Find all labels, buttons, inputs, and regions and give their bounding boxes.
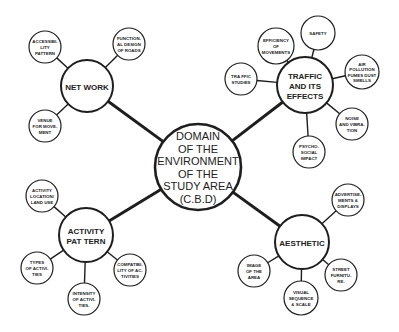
hub-node-network-label: NET WORK xyxy=(65,83,109,92)
leaf-node-traffic-3: TRA FFICSTUDIES xyxy=(225,63,257,95)
leaf-node-activity-0: ACTIVITYLOCATION/LAND USE xyxy=(26,180,58,212)
leaf-node-network-1-label: AL DESIGN xyxy=(117,42,141,47)
connector-activity-1 xyxy=(50,250,63,259)
leaf-node-traffic-0-label: EFFICIENCY xyxy=(263,38,289,43)
environment-domain-diagram: DOMAINOF THEENVIRONMENTOF THESTUDY AREA(… xyxy=(0,0,399,332)
hub-node-traffic: TRAFFICAND ITSEFFECTS xyxy=(277,57,333,113)
central-domain-node: DOMAINOF THEENVIRONMENTOF THESTUDY AREA(… xyxy=(155,124,241,210)
leaf-node-network-0-label: ACCESSIBI- xyxy=(32,39,58,44)
hub-node-aesthetic: AESTHETIC xyxy=(275,215,329,269)
connector-center-network xyxy=(108,101,163,141)
central-domain-node-label: OF THE xyxy=(178,168,218,180)
leaf-node-traffic-2: AIRPOLLUTIONFUMES DUSTSMELLS xyxy=(345,55,379,89)
leaf-node-activity-1-label: TYPES xyxy=(30,260,44,265)
central-domain-node-label: DOMAIN xyxy=(176,130,220,142)
hub-node-network: NET WORK xyxy=(61,60,113,112)
hub-node-activity-label: ACTIVITY xyxy=(68,227,105,236)
leaf-node-aesthetic-0-label: MENTS & xyxy=(338,198,359,203)
connector-traffic-3 xyxy=(257,80,277,82)
leaf-node-traffic-0: EFFICIENCYOFMOVEMENTS xyxy=(258,28,294,64)
leaf-node-activity-3-label: COMPATIBI- xyxy=(117,262,143,267)
leaf-node-network-0-label: PATTERN xyxy=(35,51,55,56)
leaf-node-aesthetic-2-label: VISUAL xyxy=(293,290,309,295)
leaf-node-activity-1-label: OF ACTIVI- xyxy=(25,266,49,271)
leaf-node-aesthetic-0: ADVERTISE-MENTS &DISPLAYS xyxy=(332,184,364,216)
leaf-node-network-1-label: OF ROADS xyxy=(117,48,140,53)
hub-node-traffic-label: EFFECTS xyxy=(287,92,324,101)
connector-activity-2 xyxy=(84,262,85,283)
leaf-node-activity-0-label: ACTIVITY xyxy=(32,188,52,193)
connector-traffic-2 xyxy=(332,76,345,79)
leaf-node-aesthetic-3-label: STREET xyxy=(332,267,350,272)
leaf-node-activity-2-label: OF ACTIVI- xyxy=(72,297,96,302)
central-domain-node-label: STUDY AREA xyxy=(163,180,233,192)
hub-node-activity-label: PAT TERN xyxy=(67,237,106,246)
leaf-node-activity-0-label: LOCATION/ xyxy=(30,194,55,199)
leaf-node-network-0: ACCESSIBI-LITYPATTERN xyxy=(29,31,61,63)
leaf-node-network-1: FUNCTION-AL DESIGNOF ROADS xyxy=(113,28,145,60)
central-domain-node-label: OF THE xyxy=(178,143,218,155)
leaf-node-traffic-3-label: STUDIES xyxy=(231,80,250,85)
leaf-node-activity-3-label: TIVITIES xyxy=(121,274,139,279)
leaf-node-aesthetic-1-label: OF THE xyxy=(246,269,262,274)
hub-node-aesthetic-label: AESTHETIC xyxy=(279,239,325,248)
leaf-node-traffic-0-label: MOVEMENTS xyxy=(262,50,290,55)
connector-center-activity xyxy=(109,189,161,221)
leaf-node-traffic-1: SAFETY xyxy=(301,16,335,50)
hub-node-activity: ACTIVITYPAT TERN xyxy=(59,208,113,262)
leaf-node-traffic-2-label: FUMES DUST xyxy=(348,73,377,78)
leaf-node-traffic-5: PSYCHO-SOCIALIMPACT xyxy=(293,136,325,168)
connector-aesthetic-3 xyxy=(323,259,329,264)
leaf-node-network-2-label: FOR MOVE- xyxy=(33,124,58,129)
leaf-node-aesthetic-2-label: SEQUENCE xyxy=(289,296,314,301)
leaf-node-aesthetic-0-label: ADVERTISE- xyxy=(335,192,362,197)
leaf-node-traffic-2-label: AIR xyxy=(358,62,366,67)
connector-traffic-4 xyxy=(327,103,340,114)
diagram-nodes: DOMAINOF THEENVIRONMENTOF THESTUDY AREA(… xyxy=(21,16,379,315)
leaf-node-traffic-5-label: SOCIAL xyxy=(301,150,318,155)
leaf-node-traffic-5-label: IMPACT xyxy=(301,156,318,161)
hub-node-traffic-label: TRAFFIC xyxy=(288,72,322,81)
leaf-node-network-1-label: FUNCTION- xyxy=(117,36,142,41)
hub-node-traffic-label: AND ITS xyxy=(289,82,322,91)
connector-aesthetic-0 xyxy=(322,211,336,224)
leaf-node-traffic-2-label: POLLUTION xyxy=(349,67,374,72)
central-domain-node-label: ENVIRONMENT xyxy=(157,155,239,167)
leaf-node-activity-2-label: TIES. xyxy=(79,303,90,308)
leaf-node-traffic-4-label: TION xyxy=(347,128,358,133)
leaf-node-activity-2: INTENSITYOF ACTIVI-TIES. xyxy=(68,283,100,315)
leaf-node-aesthetic-2-label: & SCALE xyxy=(291,302,310,307)
leaf-node-traffic-3-label: TRA FFIC xyxy=(231,74,252,79)
connector-traffic-5 xyxy=(307,113,308,136)
leaf-node-traffic-4-label: AND VIBRA- xyxy=(339,122,365,127)
connector-center-traffic xyxy=(232,102,283,141)
leaf-node-activity-1: TYPESOF ACTIVI-TIES xyxy=(21,252,53,284)
leaf-node-network-0-label: LITY xyxy=(40,45,50,50)
connector-aesthetic-1 xyxy=(268,256,279,263)
leaf-node-aesthetic-1-label: IMAGE xyxy=(247,263,261,268)
leaf-node-traffic-4: NOISEAND VIBRA-TION xyxy=(336,108,368,140)
central-domain-node-label: (C.B.D) xyxy=(180,193,217,205)
leaf-node-traffic-2-label: SMELLS xyxy=(353,78,371,83)
connector-center-aesthetic xyxy=(233,192,280,226)
leaf-node-activity-1-label: TIES xyxy=(32,272,42,277)
leaf-node-traffic-0-label: OF xyxy=(273,44,279,49)
connector-network-1 xyxy=(105,55,117,67)
leaf-node-aesthetic-1: IMAGEOF THEAREA xyxy=(238,255,270,287)
leaf-node-activity-0-label: LAND USE xyxy=(31,200,54,205)
leaf-node-network-2-label: MENT xyxy=(39,130,52,135)
leaf-node-aesthetic-3-label: RE. xyxy=(337,279,344,284)
leaf-node-aesthetic-3: STREETFURNITU-RE. xyxy=(325,259,357,291)
leaf-node-traffic-1-label: SAFETY xyxy=(309,31,326,36)
connector-activity-3 xyxy=(107,252,117,260)
leaf-node-aesthetic-2: VISUALSEQUENCE& SCALE xyxy=(284,281,318,315)
leaf-node-activity-2-label: INTENSITY xyxy=(73,291,96,296)
connector-traffic-1 xyxy=(312,49,314,57)
connector-activity-0 xyxy=(54,207,66,217)
leaf-node-activity-3-label: LITY OF AC- xyxy=(117,268,143,273)
leaf-node-aesthetic-0-label: DISPLAYS xyxy=(337,204,359,209)
leaf-node-traffic-5-label: PSYCHO- xyxy=(299,144,320,149)
leaf-node-traffic-4-label: NOISE xyxy=(345,116,359,121)
leaf-node-network-2-label: VENUE xyxy=(37,118,52,123)
connector-network-2 xyxy=(57,104,69,115)
